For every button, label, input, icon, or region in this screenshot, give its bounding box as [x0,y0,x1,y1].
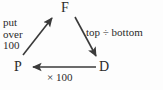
edge-label-p-to-f: put over 100 [3,17,23,52]
diagram-arrows-canvas [0,0,163,90]
node-label-d: D [99,60,109,74]
arrow-p-to-f [23,18,52,55]
edge-label-line-put: put [3,17,23,29]
edge-label-f-to-d: top ÷ bottom [86,26,143,38]
node-label-p: P [14,60,22,74]
conversion-triangle-diagram: F P D put over 100 top ÷ bottom × 100 [0,0,163,90]
node-label-f: F [61,1,69,15]
edge-label-line-100: 100 [3,40,23,52]
edge-label-d-to-p: × 100 [47,71,72,83]
